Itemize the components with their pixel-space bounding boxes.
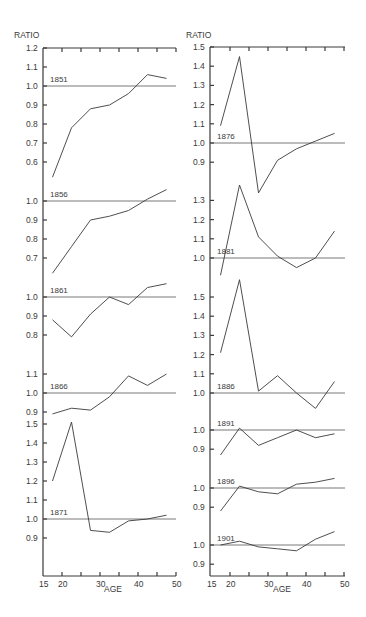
y-tick-label: 1.3 — [193, 330, 205, 340]
panel-year-label: 1861 — [50, 286, 68, 295]
y-tick-label: 1.0 — [26, 292, 38, 302]
series-line-1866 — [53, 374, 167, 414]
panel-1871: 18711.51.41.31.21.11.00.9 — [26, 419, 176, 543]
x-tick-label: 15 — [39, 579, 49, 589]
y-tick-label: 0.8 — [26, 330, 38, 340]
y-tick-label: 1.2 — [193, 350, 205, 360]
y-tick-label: 1.5 — [193, 292, 205, 302]
left-chart-column: 152030405018511.21.11.00.90.80.70.618561… — [26, 43, 182, 589]
y-tick-label: 1.1 — [193, 369, 205, 379]
x-tick-label: 50 — [340, 579, 350, 589]
series-line-1871 — [53, 422, 167, 532]
y-tick-label: 0.9 — [193, 444, 205, 454]
x-axis-label-right: AGE — [273, 584, 291, 594]
x-tick-label: 15 — [207, 579, 217, 589]
y-tick-label: 0.7 — [26, 253, 38, 263]
x-axis-label-left: AGE — [104, 584, 122, 594]
y-tick-label: 0.9 — [26, 311, 38, 321]
y-tick-label: 1.0 — [26, 81, 38, 91]
y-tick-label: 1.1 — [26, 62, 38, 72]
panel-1891: 18911.00.9 — [193, 419, 345, 455]
y-tick-label: 0.9 — [193, 502, 205, 512]
panel-1881: 18811.31.21.11.0 — [193, 185, 345, 275]
panel-1876: 18761.51.41.31.21.11.00.9 — [193, 42, 345, 193]
series-line-1896 — [221, 478, 335, 511]
panel-1896: 18961.00.9 — [193, 477, 345, 512]
x-tick-label: 20 — [226, 579, 236, 589]
series-line-1886 — [221, 280, 335, 409]
y-tick-label: 0.8 — [26, 234, 38, 244]
panel-1851: 18511.21.11.00.90.80.70.6 — [26, 43, 176, 177]
y-tick-label: 0.9 — [26, 533, 38, 543]
x-tick-label: 20 — [58, 579, 68, 589]
y-tick-label: 1.5 — [26, 419, 38, 429]
y-tick-label: 1.5 — [193, 42, 205, 52]
panel-year-label: 1901 — [217, 534, 235, 543]
y-tick-label: 1.2 — [193, 100, 205, 110]
y-tick-label: 1.3 — [193, 80, 205, 90]
y-tick-label: 0.9 — [26, 407, 38, 417]
y-tick-label: 1.2 — [26, 476, 38, 486]
y-tick-label: 1.1 — [193, 119, 205, 129]
panel-year-label: 1886 — [217, 382, 235, 391]
panel-year-label: 1896 — [217, 477, 235, 486]
y-tick-label: 1.3 — [193, 195, 205, 205]
y-tick-label: 0.7 — [26, 138, 38, 148]
figure: 152030405018511.21.11.00.90.80.70.618561… — [0, 0, 366, 617]
y-axis-label-right: RATIO — [186, 30, 212, 40]
y-tick-label: 1.0 — [26, 514, 38, 524]
panel-1901: 19011.00.9 — [193, 532, 345, 570]
y-tick-label: 1.0 — [193, 253, 205, 263]
panel-year-label: 1851 — [50, 75, 68, 84]
y-tick-label: 0.6 — [26, 157, 38, 167]
series-line-1861 — [53, 284, 167, 337]
y-tick-label: 0.9 — [193, 559, 205, 569]
y-tick-label: 1.0 — [193, 540, 205, 550]
series-line-1881 — [221, 185, 335, 275]
panel-1861: 18611.00.90.8 — [26, 284, 176, 340]
y-tick-label: 1.4 — [26, 438, 38, 448]
panel-year-label: 1876 — [217, 132, 235, 141]
y-tick-label: 1.3 — [26, 457, 38, 467]
series-line-1891 — [221, 428, 335, 455]
y-tick-label: 1.0 — [26, 388, 38, 398]
y-tick-label: 1.2 — [26, 43, 38, 53]
panel-1866: 18661.11.00.9 — [26, 369, 176, 417]
series-line-1876 — [221, 57, 335, 193]
y-tick-label: 1.0 — [193, 425, 205, 435]
y-tick-label: 1.1 — [26, 495, 38, 505]
panel-year-label: 1871 — [50, 508, 68, 517]
y-axis-label-left: RATIO — [14, 30, 40, 40]
panel-1886: 18861.51.41.31.21.11.0 — [193, 280, 345, 409]
panel-year-label: 1866 — [50, 382, 68, 391]
x-tick-label: 40 — [302, 579, 312, 589]
right-chart-column: 152030405018761.51.41.31.21.11.00.918811… — [193, 42, 350, 589]
series-line-1851 — [53, 75, 167, 178]
panel-1856: 18561.00.90.80.7 — [26, 190, 176, 274]
y-tick-label: 1.0 — [193, 138, 205, 148]
y-tick-label: 0.9 — [26, 100, 38, 110]
series-line-1901 — [221, 532, 335, 551]
y-tick-label: 1.4 — [193, 311, 205, 321]
y-tick-label: 1.2 — [193, 215, 205, 225]
y-tick-label: 1.0 — [193, 388, 205, 398]
y-tick-label: 1.0 — [193, 483, 205, 493]
y-tick-label: 0.8 — [26, 119, 38, 129]
y-tick-label: 1.4 — [193, 61, 205, 71]
panel-year-label: 1856 — [50, 190, 68, 199]
y-tick-label: 0.9 — [26, 215, 38, 225]
y-tick-label: 0.9 — [193, 157, 205, 167]
panel-year-label: 1891 — [217, 419, 235, 428]
x-tick-label: 50 — [172, 579, 182, 589]
y-tick-label: 1.1 — [193, 234, 205, 244]
y-tick-label: 1.0 — [26, 196, 38, 206]
series-line-1856 — [53, 190, 167, 274]
x-tick-label: 40 — [134, 579, 144, 589]
y-tick-label: 1.1 — [26, 369, 38, 379]
